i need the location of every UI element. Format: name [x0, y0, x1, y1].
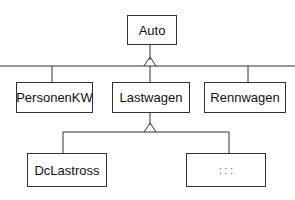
class-label: Rennwagen: [210, 90, 279, 105]
class-label: DcLastross: [34, 163, 99, 178]
class-box-lastwagen: Lastwagen: [112, 82, 190, 113]
class-box-dclastross: DcLastross: [27, 153, 107, 187]
class-label: Lastwagen: [120, 90, 183, 105]
class-box-personenkw: PersonenKW: [16, 82, 93, 113]
class-label: PersonenKW: [16, 90, 93, 105]
class-label: Auto: [139, 23, 166, 38]
class-label: : : :: [219, 165, 233, 176]
class-box-ellipsis: : : :: [186, 153, 266, 187]
class-box-rennwagen: Rennwagen: [204, 82, 286, 113]
class-box-auto: Auto: [127, 15, 177, 45]
